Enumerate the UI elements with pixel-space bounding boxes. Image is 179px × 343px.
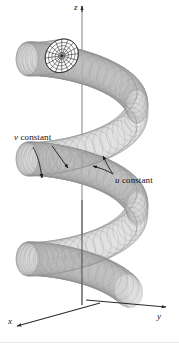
z-axis-label: z [74,3,78,12]
y-axis-label: y [157,312,161,321]
helical-tube-surface-figure [0,0,179,343]
u-constant-word: constant [120,175,153,185]
u-constant-label: u constant [115,176,153,185]
v-constant-word: constant [18,132,51,142]
x-axis-label: x [8,317,12,326]
v-constant-label: v constant [14,133,51,142]
